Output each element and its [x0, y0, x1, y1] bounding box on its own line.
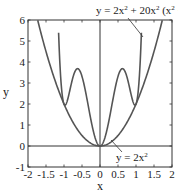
annotation-parabola: y = 2x2 — [116, 151, 148, 163]
x-tick-label: 0.5 — [111, 168, 125, 180]
y-tick-label: 4 — [20, 56, 26, 68]
y-tick-label: 6 — [20, 14, 26, 26]
annotation-quartic-leader — [128, 18, 143, 37]
annotation-quartic: y = 2x2 + 20x2 (x2 − 1)2 — [96, 4, 178, 17]
x-tick-label: 1.5 — [147, 168, 161, 180]
y-tick-label: 0 — [20, 140, 26, 152]
y-tick-label: 3 — [20, 77, 26, 89]
y-tick-label: -1 — [16, 161, 25, 173]
x-tick-label: -1 — [59, 168, 68, 180]
y-tick-label: 1 — [20, 119, 26, 131]
x-tick-label: 1 — [133, 168, 139, 180]
x-tick-label: -1.5 — [37, 168, 55, 180]
y-tick-label: 2 — [20, 98, 26, 110]
y-axis-ticks: -10123456 — [16, 14, 172, 173]
chart: -2-1.5-1-0.500.511.52 -10123456 x y y = … — [0, 0, 178, 193]
y-axis-label: y — [3, 85, 9, 99]
y-tick-label: 5 — [20, 35, 26, 47]
x-tick-label: 2 — [169, 168, 175, 180]
x-tick-label: -0.5 — [73, 168, 91, 180]
x-axis-label: x — [97, 179, 103, 193]
x-axis-ticks: -2-1.5-1-0.500.511.52 — [23, 20, 174, 180]
